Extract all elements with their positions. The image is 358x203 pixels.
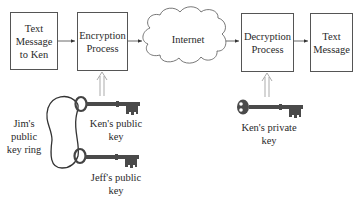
jeff-public-line-1: Jeff's public — [86, 171, 146, 184]
ken-public-line-2: key — [86, 130, 146, 143]
encrypt-line-1: Encryption — [79, 29, 126, 42]
key-ring-label: Jim's public key ring — [2, 117, 46, 156]
source-line-3: to Ken — [16, 48, 53, 61]
source-message-box: Text Message to Ken — [10, 12, 58, 70]
jeff-public-key-label: Jeff's public key — [86, 171, 146, 197]
key-ring-line-1: Jim's — [2, 117, 46, 130]
jeff-public-line-2: key — [86, 184, 146, 197]
encryption-process-box: Encryption Process — [77, 12, 128, 71]
ken-private-line-2: key — [236, 134, 302, 147]
decryption-process-box: Decryption Process — [241, 13, 294, 72]
internet-label: Internet — [158, 34, 218, 45]
ken-public-key-label: Ken's public key — [86, 117, 146, 143]
decrypt-line-2: Process — [244, 43, 291, 56]
ken-private-key-icon — [237, 100, 303, 119]
dest-line-1: Text — [313, 30, 350, 43]
encrypt-line-2: Process — [79, 42, 126, 55]
source-line-2: Message — [16, 35, 53, 48]
ken-private-key-label: Ken's private key — [236, 121, 302, 147]
key-ring-line-3: key ring — [2, 143, 46, 156]
ken-public-line-1: Ken's public — [86, 117, 146, 130]
double-arrow-public-key-to-encrypt — [97, 72, 107, 96]
source-line-1: Text — [16, 22, 53, 35]
decrypt-line-1: Decryption — [244, 30, 291, 43]
jeff-public-key-icon — [75, 149, 140, 168]
ken-private-line-1: Ken's private — [236, 121, 302, 134]
destination-message-box: Text Message — [310, 13, 353, 72]
dest-line-2: Message — [313, 43, 350, 56]
key-ring-line-2: public — [2, 130, 46, 143]
double-arrow-private-key-to-decrypt — [262, 73, 272, 97]
ken-public-key-icon — [76, 97, 141, 115]
